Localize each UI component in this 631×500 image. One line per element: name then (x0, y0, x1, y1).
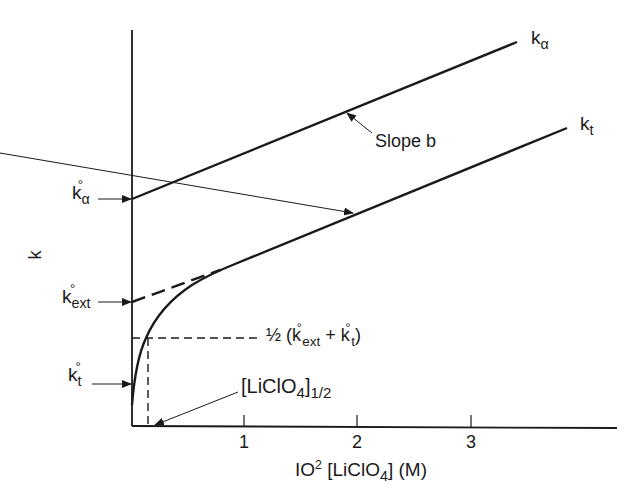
x-tick-label-1: 1 (239, 433, 249, 451)
conc-half-arrow (155, 392, 238, 425)
conc-half-sub: 1/2 (310, 384, 331, 401)
k-alpha-zero-degree: ° (78, 177, 83, 192)
k-ext-zero-label: kext° (62, 287, 89, 306)
k-alpha-zero-sub: α (82, 191, 90, 207)
k-t-curve (132, 128, 567, 405)
x-tick-label-2: 2 (352, 433, 362, 451)
x-axis-prefix: IO (295, 459, 315, 480)
x-axis-species-sub: 4 (380, 468, 388, 484)
half-level-label: ½ (k°ext + k°t) (266, 326, 361, 344)
k-alpha-end-base: k (531, 27, 541, 48)
k-alpha-end-label: kα (531, 28, 549, 47)
chart-canvas (0, 0, 631, 500)
slope-arrow-upper (347, 113, 372, 133)
half-ext-sub: ext (302, 334, 320, 349)
half-t-sub: t (351, 334, 355, 349)
x-axis-species-open: [LiClO (327, 459, 380, 480)
conc-half-label: [LiClO4]1/2 (241, 376, 331, 396)
k-ext-zero-degree: ° (70, 281, 75, 296)
half-fraction: ½ (266, 325, 281, 345)
slope-arrow-lower (0, 153, 353, 213)
k-t-zero-sub: t (78, 373, 82, 389)
x-tick-label-3: 3 (466, 433, 476, 451)
half-close: ) (355, 325, 361, 345)
k-t-zero-degree: ° (75, 359, 80, 374)
conc-half-sub4: 4 (297, 384, 305, 401)
x-axis (132, 426, 617, 428)
k-t-end-sub: t (590, 122, 594, 138)
k-alpha-end-sub: α (541, 36, 549, 52)
x-axis-title: IO2 [LiClO4] (M) (295, 459, 427, 479)
x-axis-species-close: ] (388, 459, 393, 480)
k-t-zero-label: kt° (68, 365, 80, 384)
k-t-end-label: kt (580, 114, 593, 133)
conc-half-open: [LiClO (241, 375, 297, 397)
k-alpha-line (132, 42, 517, 199)
half-t-degree: ° (345, 321, 350, 335)
y-axis-label: k (26, 251, 44, 260)
x-axis-exp: 2 (315, 458, 322, 472)
k-alpha-zero-label: kα° (72, 183, 88, 202)
half-ext-degree: ° (297, 321, 302, 335)
k-t-end-base: k (580, 113, 590, 134)
slope-b-label: Slope b (375, 132, 436, 150)
k-ext-zero-sub: ext (72, 295, 91, 311)
x-axis-unit: (M) (399, 459, 427, 480)
